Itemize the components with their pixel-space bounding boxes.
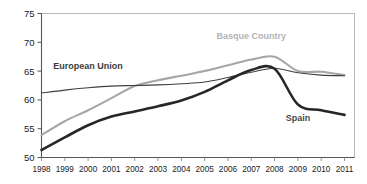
y-tick-label: 50 — [24, 152, 35, 163]
x-tick-label: 1999 — [56, 165, 75, 174]
series-label-european-union: European Union — [53, 61, 123, 71]
x-tick-label: 1998 — [32, 165, 51, 174]
y-tick-label: 75 — [24, 8, 35, 19]
x-tick-label: 2004 — [172, 165, 191, 174]
x-tick-label: 2010 — [312, 165, 331, 174]
x-tick-label: 2000 — [79, 165, 98, 174]
plot-frame — [42, 14, 355, 158]
y-tick-label: 60 — [24, 94, 35, 105]
series-line-spain — [42, 66, 345, 150]
y-axis-tick-labels: 505560657075 — [24, 8, 35, 163]
chart-canvas: 505560657075 199819992000200120022003200… — [0, 0, 367, 184]
plot-area-border — [42, 14, 355, 158]
x-tick-label: 2002 — [126, 165, 145, 174]
y-tick-label: 55 — [24, 123, 35, 134]
line-chart: 505560657075 199819992000200120022003200… — [0, 0, 367, 184]
x-tick-label: 2009 — [289, 165, 308, 174]
axis-lines — [42, 14, 355, 158]
x-tick-label: 2005 — [196, 165, 215, 174]
x-tick-label: 2003 — [149, 165, 168, 174]
x-tick-label: 2007 — [242, 165, 261, 174]
x-tick-label: 2001 — [102, 165, 121, 174]
y-tick-label: 65 — [24, 66, 35, 77]
x-tick-label: 2006 — [219, 165, 238, 174]
x-tick-label: 2011 — [336, 165, 354, 174]
series-label-basque-country: Basque Country — [217, 31, 287, 41]
x-tick-label: 2008 — [265, 165, 284, 174]
x-axis-tick-labels: 1998199920002001200220032004200520062007… — [32, 165, 353, 174]
y-tick-label: 70 — [24, 37, 35, 48]
series-label-spain: Spain — [286, 113, 311, 123]
